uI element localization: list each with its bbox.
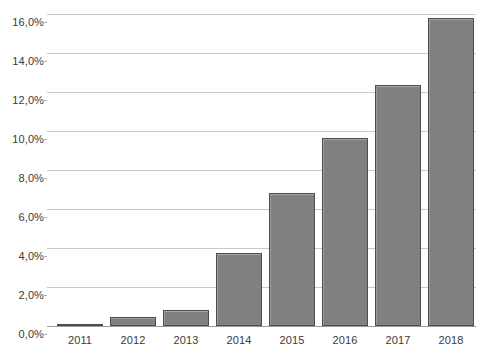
bar-2014	[216, 253, 262, 326]
y-tick-label: 0,0%	[4, 329, 44, 340]
y-tick-mark	[40, 178, 47, 179]
y-tick-mark	[40, 100, 47, 101]
y-tick-mark	[40, 334, 47, 335]
gridline	[47, 14, 476, 15]
x-tick-label: 2013	[163, 334, 209, 347]
y-tick-label: 14,0%	[4, 56, 44, 67]
bar-2018	[428, 18, 474, 326]
x-tick-label: 2016	[322, 334, 368, 347]
y-tick-label: 2,0%	[4, 290, 44, 301]
y-tick-mark	[40, 139, 47, 140]
bar-2013	[163, 310, 209, 326]
y-tick-mark	[40, 256, 47, 257]
y-tick-mark	[40, 217, 47, 218]
bar-2016	[322, 138, 368, 326]
y-tick-label: 16,0%	[4, 17, 44, 28]
bar-2017	[375, 85, 421, 326]
x-tick-label: 2017	[375, 334, 421, 347]
bar-2015	[269, 193, 315, 326]
x-tick-label: 2018	[428, 334, 474, 347]
y-tick-label: 4,0%	[4, 251, 44, 262]
y-tick-label: 8,0%	[4, 173, 44, 184]
y-tick-label: 12,0%	[4, 95, 44, 106]
bar-2012	[110, 317, 156, 326]
y-tick-mark	[40, 61, 47, 62]
y-axis: 16,0% 14,0% 12,0% 10,0% 8,0% 6,0% 4,0% 2…	[0, 8, 44, 330]
x-axis: 2011 2012 2013 2014 2015 2016 2017 2018	[47, 334, 476, 358]
x-axis-line	[47, 326, 476, 327]
bar-2011	[57, 324, 103, 326]
y-tick-label: 6,0%	[4, 212, 44, 223]
x-tick-label: 2015	[269, 334, 315, 347]
y-tick-mark	[40, 22, 47, 23]
y-tick-label: 10,0%	[4, 134, 44, 145]
plot-area	[47, 8, 476, 330]
gridline	[47, 53, 476, 54]
y-tick-mark	[40, 295, 47, 296]
bar-chart: 16,0% 14,0% 12,0% 10,0% 8,0% 6,0% 4,0% 2…	[0, 0, 482, 361]
x-tick-label: 2012	[110, 334, 156, 347]
x-tick-label: 2011	[57, 334, 103, 347]
x-tick-label: 2014	[216, 334, 262, 347]
